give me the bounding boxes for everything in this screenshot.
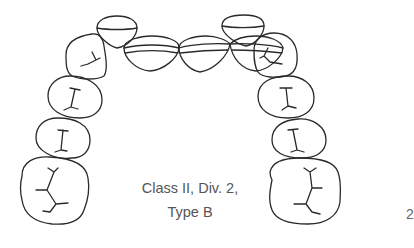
page-number: 2 — [406, 206, 414, 222]
caption-line-2: Type B — [100, 200, 280, 224]
diagram-caption: Class II, Div. 2, Type B — [100, 176, 280, 224]
caption-line-1: Class II, Div. 2, — [100, 176, 280, 200]
tooth-left-first-premolar — [66, 34, 106, 79]
tooth-right-lateral-incisor — [222, 15, 264, 46]
tooth-right-second-premolar — [258, 76, 314, 118]
tooth-left-second-premolar — [48, 76, 102, 118]
tooth-right-second-molar — [270, 158, 341, 224]
tooth-left-second-molar — [21, 157, 89, 224]
tooth-right-first-molar — [272, 119, 326, 158]
tooth-left-central-incisor — [179, 36, 230, 72]
tooth-left-lateral-incisor — [124, 36, 179, 71]
tooth-left-first-molar — [36, 118, 90, 158]
